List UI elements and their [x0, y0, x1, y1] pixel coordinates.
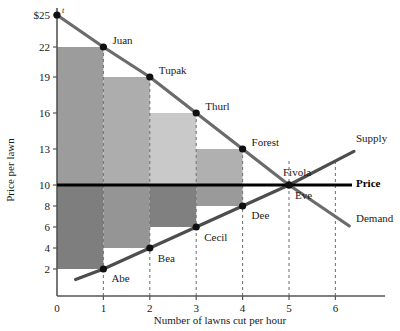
y-tick-label: 6	[45, 221, 51, 233]
chart-canvas: 24681013161922$25 0123456 JuanTupakThurl…	[0, 0, 400, 331]
y-tick-label: $25	[34, 9, 51, 21]
x-tick-label: 3	[193, 302, 199, 314]
y-tick-label: 22	[39, 41, 50, 53]
y-axis-title: Price per lawn	[4, 138, 16, 202]
buyer-label-fivola: Fivola	[283, 166, 311, 178]
buyer-label-thurl: Thurl	[205, 100, 229, 112]
consumer-surplus-bar	[150, 113, 196, 185]
consumer-surplus-bar	[57, 47, 103, 185]
buyer-point-thurl	[193, 109, 200, 116]
x-tick-label: 6	[333, 302, 339, 314]
x-tick-label: 5	[286, 302, 292, 314]
buyer-label-forest: Forest	[252, 136, 280, 148]
consumer-surplus-bar	[196, 149, 242, 185]
buyer-point-tupak	[146, 73, 153, 80]
producer-surplus-bar	[196, 185, 242, 206]
x-axis-ticks: 0123456	[54, 296, 338, 314]
producer-surplus-bar	[103, 185, 149, 248]
demand-curve-label: Demand	[356, 212, 394, 224]
y-tick-label: 8	[45, 200, 51, 212]
x-axis-title: Number of lawns cut per hour	[154, 314, 287, 326]
seller-label-bea: Bea	[158, 252, 175, 264]
price-line-label: Price	[356, 177, 381, 189]
seller-point-cecil	[193, 223, 200, 230]
producer-surplus-bar	[57, 185, 103, 269]
buyer-label-juan: Juan	[112, 34, 133, 46]
y-tick-label: 4	[45, 242, 51, 254]
y-tick-label: 16	[39, 107, 51, 119]
seller-label-eve: Eve	[295, 189, 312, 201]
buyer-point-juan	[100, 43, 107, 50]
buyer-point-forest	[239, 145, 246, 152]
y-tick-label: 13	[39, 143, 51, 155]
y-tick-label: 10	[39, 179, 51, 191]
buyer-label-tupak: Tupak	[159, 64, 187, 76]
seller-point-bea	[146, 244, 153, 251]
producer-surplus-bar	[150, 185, 196, 227]
supply-demand-chart: 24681013161922$25 0123456 JuanTupakThurl…	[0, 0, 400, 331]
axis-top-marker: t	[62, 6, 65, 15]
seller-label-dee: Dee	[252, 209, 270, 221]
demand-intercept-point	[53, 11, 60, 18]
y-tick-label: 19	[39, 71, 51, 83]
consumer-surplus-bar	[103, 77, 149, 185]
seller-point-eve	[285, 181, 292, 188]
seller-point-abe	[100, 265, 107, 272]
seller-point-dee	[239, 202, 246, 209]
x-tick-label: 0	[54, 302, 60, 314]
supply-curve-label: Supply	[356, 132, 388, 144]
seller-label-abe: Abe	[111, 272, 129, 284]
seller-label-cecil: Cecil	[204, 231, 227, 243]
x-tick-label: 1	[101, 302, 107, 314]
x-tick-label: 2	[147, 302, 153, 314]
y-tick-label: 2	[45, 263, 51, 275]
y-axis-ticks: 24681013161922$25	[34, 9, 58, 275]
x-tick-label: 4	[240, 302, 246, 314]
